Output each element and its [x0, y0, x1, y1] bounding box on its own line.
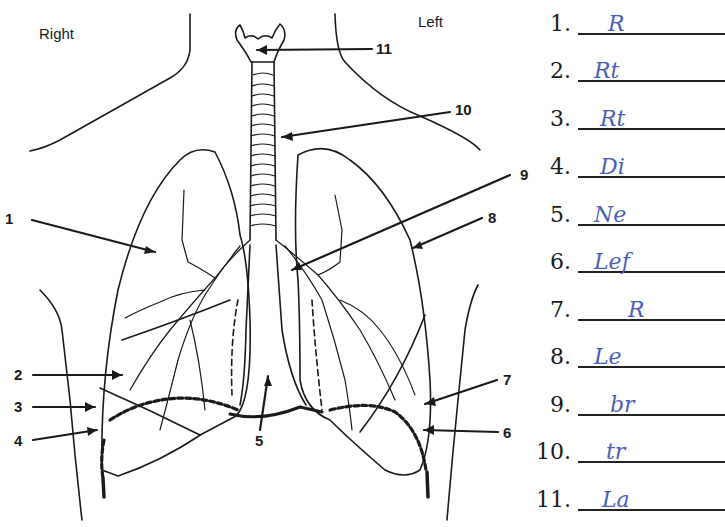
- callout-6: 6: [503, 424, 511, 441]
- right-lung-oblique-fissure: [100, 388, 200, 435]
- callout-8: 8: [488, 209, 496, 226]
- callout-10: 10: [455, 101, 472, 118]
- diaphragm-left-dashed: [330, 405, 426, 470]
- left-lung-oblique-fissure: [360, 315, 425, 432]
- answer-number: 5.: [550, 202, 571, 227]
- answer-row-7[interactable]: 7. R: [530, 288, 725, 328]
- callout-9: 9: [520, 166, 528, 183]
- right-lung-outline: [102, 150, 250, 476]
- answer-number: 2.: [550, 58, 571, 83]
- callout-lines: [32, 49, 510, 440]
- answer-handwriting: R: [608, 11, 625, 36]
- trachea-outline-right: [274, 62, 276, 240]
- answer-line: [578, 461, 725, 463]
- pleura-right-dashed: [102, 440, 104, 478]
- answer-line: [578, 319, 725, 321]
- answer-sheet: 1. R 2. Rt 3. Rt 4. Di 5. Ne 6. Lef 7. R…: [530, 0, 725, 527]
- answer-line: [578, 33, 725, 35]
- answer-row-2[interactable]: 2. Rt: [530, 49, 725, 89]
- left-bronchial-tree: [276, 195, 415, 430]
- answer-line: [578, 509, 725, 511]
- side-label-left: Left: [418, 13, 443, 30]
- answer-row-6[interactable]: 6. Lef: [530, 240, 725, 280]
- answer-handwriting: Ne: [594, 202, 626, 227]
- answer-handwriting: Di: [600, 154, 625, 179]
- diaphragm: [230, 407, 322, 417]
- answer-row-10[interactable]: 10. tr: [530, 430, 725, 470]
- answer-row-3[interactable]: 3. Rt: [530, 97, 725, 137]
- callout-3: 3: [14, 398, 22, 415]
- callout-1: 1: [5, 210, 13, 227]
- larynx-outline: [236, 24, 285, 62]
- callout-2: 2: [14, 366, 22, 383]
- answer-row-9[interactable]: 9. br: [530, 383, 725, 423]
- answer-handwriting: R: [628, 297, 645, 322]
- pleura-stub-left: [427, 472, 428, 497]
- side-label-right: Right: [39, 25, 74, 42]
- answer-row-1[interactable]: 1. R: [530, 2, 725, 42]
- answer-number: 7.: [550, 297, 571, 322]
- right-lung-horizontal-fissure: [122, 300, 230, 340]
- left-lung-heart-border-dashed: [312, 300, 322, 410]
- answer-handwriting: La: [602, 487, 630, 512]
- body-outline-right-arm: [40, 290, 82, 520]
- answer-row-4[interactable]: 4. Di: [530, 145, 725, 185]
- answer-handwriting: br: [610, 392, 635, 417]
- right-lung-heart-border-dashed: [232, 300, 238, 395]
- answer-handwriting: Lef: [594, 249, 630, 274]
- answer-handwriting: Rt: [594, 58, 619, 83]
- callout-4: 4: [14, 432, 22, 449]
- answer-line: [578, 414, 725, 416]
- body-outline-left-arm: [447, 285, 478, 520]
- answer-number: 6.: [550, 249, 571, 274]
- answer-row-8[interactable]: 8. Le: [530, 335, 725, 375]
- pleura-stub-right: [103, 478, 104, 497]
- callout-7: 7: [503, 371, 511, 388]
- answer-handwriting: tr: [606, 439, 625, 464]
- answer-row-11[interactable]: 11. La: [530, 478, 725, 518]
- trachea-outline-left: [250, 62, 252, 240]
- answer-number: 10.: [536, 439, 571, 464]
- answer-number: 11.: [536, 487, 571, 512]
- body-outline-left-neck: [335, 14, 480, 150]
- answer-number: 8.: [550, 344, 571, 369]
- answer-handwriting: Rt: [600, 106, 625, 131]
- callout-5: 5: [255, 432, 263, 449]
- answer-number: 4.: [550, 154, 571, 179]
- answer-number: 1.: [550, 11, 571, 36]
- answer-handwriting: Le: [594, 344, 622, 369]
- trachea-rings: [250, 73, 276, 226]
- answer-row-5[interactable]: 5. Ne: [530, 193, 725, 233]
- answer-number: 9.: [550, 392, 571, 417]
- answer-number: 3.: [550, 106, 571, 131]
- callout-11: 11: [376, 40, 392, 57]
